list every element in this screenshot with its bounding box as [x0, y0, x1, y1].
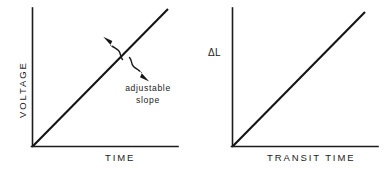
x-axis-label-transit-time: TRANSIT TIME: [267, 153, 355, 163]
annotation-line-1: adjustable: [117, 83, 179, 95]
chart-panel-voltage-vs-time: VOLTAGE TIME adjustable slope: [0, 0, 196, 179]
data-line-delta-l: [233, 12, 365, 146]
slope-increase-arrow: [103, 37, 122, 60]
adjustable-slope-annotation: adjustable slope: [117, 83, 179, 106]
slope-decrease-arrow: [130, 58, 150, 82]
y-axis-label-voltage: VOLTAGE: [18, 61, 28, 118]
y-axis-label-delta-l: ΔL: [208, 48, 221, 58]
figure-root: VOLTAGE TIME adjustable slope ΔL TRANSIT…: [0, 0, 391, 179]
arrow-head-up: [103, 37, 114, 49]
data-line-voltage: [33, 9, 168, 146]
chart-panel-delta-l-vs-transit-time: ΔL TRANSIT TIME: [195, 0, 391, 179]
annotation-line-2: slope: [117, 95, 179, 107]
x-axis-label-time: TIME: [105, 153, 135, 163]
